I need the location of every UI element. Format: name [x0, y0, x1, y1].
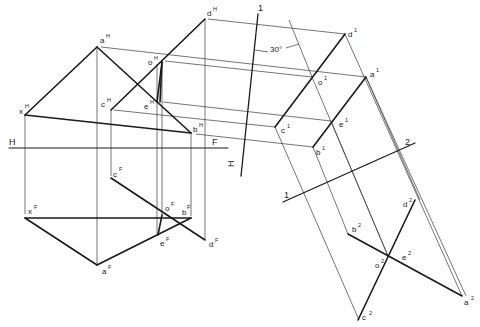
svg-text:H: H	[25, 103, 29, 109]
svg-text:1: 1	[345, 117, 348, 123]
labels-f-view: a F b F c F d F e F o F x F	[28, 166, 219, 276]
labels-aux-2: a 2 b 2 c 2 d 2 e 2 o 2	[352, 197, 474, 322]
reference-line-hf: H F	[9, 137, 228, 148]
svg-text:F: F	[187, 204, 191, 210]
svg-text:e: e	[160, 239, 165, 248]
svg-text:2: 2	[369, 310, 372, 316]
svg-text:a: a	[370, 70, 375, 79]
label-1: 1	[284, 190, 289, 200]
svg-text:c: c	[113, 170, 117, 179]
svg-text:a: a	[102, 267, 107, 276]
svg-text:F: F	[171, 201, 175, 207]
label-f: F	[212, 137, 218, 147]
svg-text:F: F	[166, 236, 170, 242]
svg-text:o: o	[375, 261, 380, 270]
projectors-1-to-2	[275, 20, 466, 320]
descriptive-geometry-drawing: H F 1 H 30° 1 2	[0, 0, 480, 327]
svg-text:a: a	[100, 36, 105, 45]
svg-text:o: o	[148, 58, 153, 67]
svg-text:H: H	[107, 97, 111, 103]
svg-text:x: x	[28, 207, 32, 216]
svg-text:o: o	[165, 204, 170, 213]
svg-text:b: b	[352, 225, 357, 234]
svg-text:e: e	[144, 102, 149, 111]
horizontal-view	[25, 19, 205, 133]
svg-text:a: a	[464, 298, 469, 307]
svg-text:d: d	[207, 9, 211, 18]
label-2: 2	[405, 137, 410, 147]
angle-label: 30°	[270, 45, 282, 54]
svg-text:1: 1	[287, 123, 290, 129]
svg-text:o: o	[318, 78, 323, 87]
svg-text:b: b	[193, 125, 198, 134]
angle-annotation: 30°	[255, 44, 299, 54]
label-h: H	[9, 137, 16, 147]
svg-text:F: F	[119, 166, 123, 172]
svg-text:d: d	[348, 30, 352, 39]
reference-line-h1: 1 H	[226, 3, 263, 176]
svg-text:x: x	[19, 107, 23, 116]
svg-text:1: 1	[324, 75, 327, 81]
svg-text:1: 1	[322, 145, 325, 151]
svg-text:b: b	[316, 148, 321, 157]
svg-text:H: H	[154, 55, 158, 61]
svg-text:H: H	[150, 99, 154, 105]
svg-text:H: H	[213, 6, 217, 12]
svg-text:2: 2	[408, 250, 411, 256]
svg-text:c: c	[281, 126, 285, 135]
svg-text:F: F	[215, 237, 219, 243]
svg-text:F: F	[34, 204, 38, 210]
svg-text:2: 2	[358, 222, 361, 228]
svg-text:d: d	[403, 200, 407, 209]
svg-text:c: c	[101, 100, 105, 109]
svg-text:2: 2	[381, 258, 384, 264]
svg-text:F: F	[108, 264, 112, 270]
front-view	[25, 178, 205, 265]
svg-text:H: H	[106, 33, 110, 39]
svg-text:c: c	[362, 313, 366, 322]
label-1-top: 1	[258, 3, 263, 13]
labels-h-view: a H b H c H d H e H o H x H	[19, 6, 217, 134]
svg-text:1: 1	[354, 27, 357, 33]
svg-text:d: d	[209, 240, 213, 249]
svg-text:e: e	[339, 120, 344, 129]
svg-text:1: 1	[376, 67, 379, 73]
svg-text:2: 2	[409, 197, 412, 203]
label-h-rotated: H	[226, 161, 236, 168]
labels-aux-1: a 1 b 1 c 1 d 1 e 1 o 1	[281, 27, 379, 157]
svg-text:e: e	[402, 253, 407, 262]
svg-text:H: H	[199, 122, 203, 128]
svg-text:2: 2	[471, 295, 474, 301]
